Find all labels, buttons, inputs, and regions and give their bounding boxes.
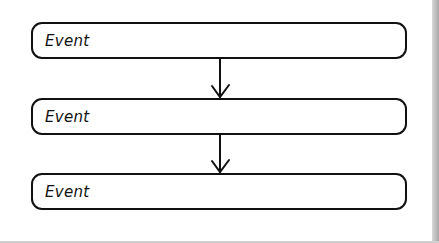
diagram-canvas: Event Event Event (0, 0, 432, 241)
arrow-down-icon (212, 135, 229, 172)
arrow-down-icon (212, 59, 229, 97)
arrows-layer (0, 0, 432, 241)
page-shadow-right (432, 0, 439, 243)
